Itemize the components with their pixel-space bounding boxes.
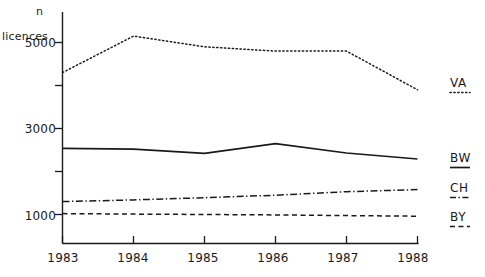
series-line-bw — [63, 144, 418, 159]
series-line-va — [63, 36, 418, 90]
line-chart-figure: n licences 5000 3000 1000 1983 1984 1985… — [0, 0, 485, 277]
x-axis-ticks — [63, 236, 418, 244]
series-line-by — [63, 214, 418, 217]
y-axis-ticks — [55, 43, 63, 215]
plot-area — [0, 0, 485, 277]
series-line-ch — [63, 190, 418, 202]
